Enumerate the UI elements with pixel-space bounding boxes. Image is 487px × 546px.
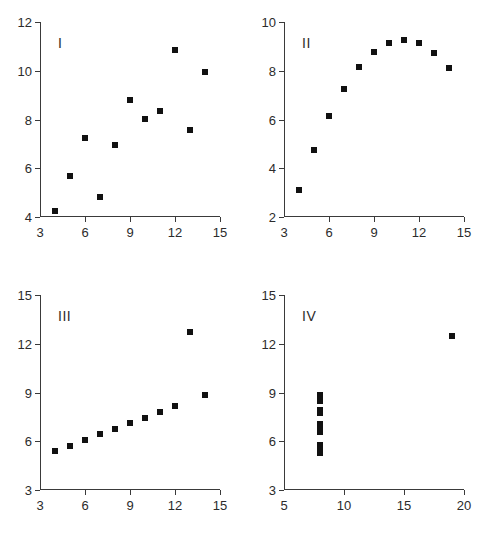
data-point bbox=[82, 437, 88, 443]
x-tick-2-2 bbox=[374, 217, 375, 222]
x-tick-2-1 bbox=[329, 217, 330, 222]
data-point bbox=[401, 37, 407, 43]
data-point bbox=[67, 173, 73, 179]
y-tick-label-2-0: 2 bbox=[269, 211, 276, 224]
x-tick-label-1-1: 6 bbox=[81, 226, 88, 239]
y-tick-4-1 bbox=[279, 441, 284, 442]
data-point bbox=[431, 50, 437, 56]
y-tick-1-1 bbox=[35, 168, 40, 169]
y-tick-4-4 bbox=[279, 295, 284, 296]
y-axis-3 bbox=[40, 295, 41, 490]
y-tick-2-1 bbox=[279, 168, 284, 169]
y-axis-2 bbox=[284, 22, 285, 217]
x-tick-label-4-2: 15 bbox=[397, 499, 411, 512]
data-point bbox=[142, 116, 148, 122]
x-tick-4-2 bbox=[404, 490, 405, 495]
y-tick-1-0 bbox=[35, 217, 40, 218]
y-tick-label-3-0: 3 bbox=[25, 484, 32, 497]
data-point bbox=[112, 142, 118, 148]
x-tick-label-3-2: 9 bbox=[126, 499, 133, 512]
data-point bbox=[386, 40, 392, 46]
x-tick-label-3-3: 12 bbox=[168, 499, 182, 512]
data-point bbox=[97, 194, 103, 200]
y-tick-label-1-3: 10 bbox=[18, 64, 32, 77]
data-point bbox=[157, 409, 163, 415]
data-point bbox=[112, 426, 118, 432]
x-tick-1-1 bbox=[85, 217, 86, 222]
anscombe-quartet-figure: I 46810123691215 II 2468103691215 III 36… bbox=[0, 0, 487, 546]
y-tick-label-2-2: 6 bbox=[269, 113, 276, 126]
x-tick-label-4-3: 20 bbox=[457, 499, 471, 512]
y-tick-3-0 bbox=[35, 490, 40, 491]
y-tick-label-3-1: 6 bbox=[25, 435, 32, 448]
x-axis-4 bbox=[284, 489, 464, 490]
plot-area-2: II 2468103691215 bbox=[284, 22, 464, 217]
x-tick-label-4-1: 10 bbox=[337, 499, 351, 512]
x-tick-label-1-0: 3 bbox=[36, 226, 43, 239]
panel-label-2: II bbox=[302, 36, 311, 50]
x-tick-label-2-0: 3 bbox=[280, 226, 287, 239]
y-tick-label-1-2: 8 bbox=[25, 113, 32, 126]
data-point bbox=[172, 47, 178, 53]
y-tick-label-4-0: 3 bbox=[269, 484, 276, 497]
y-tick-label-4-1: 6 bbox=[269, 435, 276, 448]
y-tick-3-1 bbox=[35, 441, 40, 442]
scatter-panel-2: II 2468103691215 bbox=[244, 0, 487, 273]
plot-area-1: I 46810123691215 bbox=[40, 22, 220, 217]
y-tick-label-2-4: 10 bbox=[262, 16, 276, 29]
x-tick-label-2-4: 15 bbox=[457, 226, 471, 239]
data-point bbox=[371, 49, 377, 55]
y-axis-4 bbox=[284, 295, 285, 490]
y-tick-label-3-4: 15 bbox=[18, 289, 32, 302]
x-tick-label-3-4: 15 bbox=[213, 499, 227, 512]
y-tick-1-3 bbox=[35, 71, 40, 72]
x-tick-label-3-0: 3 bbox=[36, 499, 43, 512]
data-point bbox=[52, 208, 58, 214]
data-point bbox=[416, 40, 422, 46]
x-tick-label-2-2: 9 bbox=[370, 226, 377, 239]
y-tick-2-3 bbox=[279, 71, 284, 72]
y-tick-label-3-3: 12 bbox=[18, 337, 32, 350]
y-tick-3-2 bbox=[35, 393, 40, 394]
panel-label-4: IV bbox=[302, 309, 316, 323]
data-point bbox=[127, 420, 133, 426]
x-tick-4-3 bbox=[464, 490, 465, 495]
x-tick-2-3 bbox=[419, 217, 420, 222]
data-point bbox=[187, 329, 193, 335]
y-tick-2-4 bbox=[279, 22, 284, 23]
x-tick-label-1-2: 9 bbox=[126, 226, 133, 239]
x-tick-1-2 bbox=[130, 217, 131, 222]
data-point bbox=[97, 431, 103, 437]
x-tick-1-3 bbox=[175, 217, 176, 222]
x-tick-label-1-4: 15 bbox=[213, 226, 227, 239]
y-tick-label-1-0: 4 bbox=[25, 211, 32, 224]
data-point bbox=[202, 69, 208, 75]
y-tick-3-4 bbox=[35, 295, 40, 296]
panel-label-1: I bbox=[58, 36, 62, 50]
scatter-panel-4: IV 36912155101520 bbox=[244, 273, 487, 546]
data-point bbox=[127, 97, 133, 103]
x-tick-label-2-1: 6 bbox=[325, 226, 332, 239]
y-axis-1 bbox=[40, 22, 41, 217]
data-point bbox=[142, 415, 148, 421]
data-point bbox=[317, 398, 323, 404]
y-tick-2-2 bbox=[279, 120, 284, 121]
plot-area-4: IV 36912155101520 bbox=[284, 295, 464, 490]
x-tick-label-4-0: 5 bbox=[280, 499, 287, 512]
data-point bbox=[446, 65, 452, 71]
y-tick-3-3 bbox=[35, 344, 40, 345]
data-point bbox=[296, 187, 302, 193]
x-tick-3-1 bbox=[85, 490, 86, 495]
y-tick-label-1-1: 6 bbox=[25, 162, 32, 175]
data-point bbox=[157, 108, 163, 114]
data-point bbox=[82, 135, 88, 141]
y-tick-4-0 bbox=[279, 490, 284, 491]
x-tick-label-2-3: 12 bbox=[412, 226, 426, 239]
x-tick-label-1-3: 12 bbox=[168, 226, 182, 239]
data-point bbox=[172, 403, 178, 409]
data-point bbox=[317, 407, 323, 413]
x-tick-label-3-1: 6 bbox=[81, 499, 88, 512]
y-tick-label-4-4: 15 bbox=[262, 289, 276, 302]
x-tick-3-2 bbox=[130, 490, 131, 495]
y-tick-label-2-3: 8 bbox=[269, 64, 276, 77]
